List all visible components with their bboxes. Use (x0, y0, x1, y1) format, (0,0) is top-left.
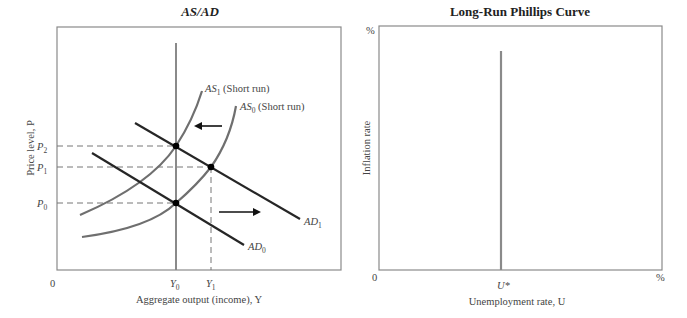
phillips-origin-label: 0 (372, 272, 377, 283)
p0-tick-label: P0 (36, 198, 47, 212)
y1-tick-label: Y1 (206, 278, 216, 292)
phillips-y-axis-label: Inflation rate (361, 120, 372, 175)
x-max-percent-label: % (656, 272, 665, 283)
asad-y-axis-label: Price level, P (25, 120, 36, 176)
asad-origin-label: 0 (50, 278, 55, 289)
ad1-line (135, 123, 300, 219)
equilibrium-point-y0-p2 (173, 143, 180, 150)
p1-tick-label: P1 (36, 162, 47, 176)
as1-label: AS1 (Short run) (204, 83, 270, 97)
phillips-plot-frame (379, 26, 662, 270)
asad-title: AS/AD (180, 4, 219, 19)
equilibrium-point-y0-p0 (173, 200, 180, 207)
as0-label: AS0 (Short run) (239, 101, 305, 115)
ad0-label: AD0 (247, 241, 266, 255)
asad-x-axis-label: Aggregate output (income), Y (136, 294, 263, 306)
p2-tick-label: P2 (36, 141, 47, 155)
y-max-percent-label: % (366, 25, 375, 36)
phillips-panel: Long-Run Phillips Curve % Inflation rate… (361, 4, 665, 307)
phillips-x-axis-label: Unemployment rate, U (469, 296, 566, 307)
phillips-title: Long-Run Phillips Curve (450, 4, 590, 19)
figure: AS/AD Price level, P AS1 (Short run) AS0… (0, 0, 687, 318)
ustar-tick-label: U* (497, 280, 511, 291)
asad-panel: AS/AD Price level, P AS1 (Short run) AS0… (25, 4, 341, 306)
ad1-label: AD1 (303, 216, 322, 230)
y0-tick-label: Y0 (170, 278, 180, 292)
equilibrium-point-y1-p1 (208, 164, 215, 171)
